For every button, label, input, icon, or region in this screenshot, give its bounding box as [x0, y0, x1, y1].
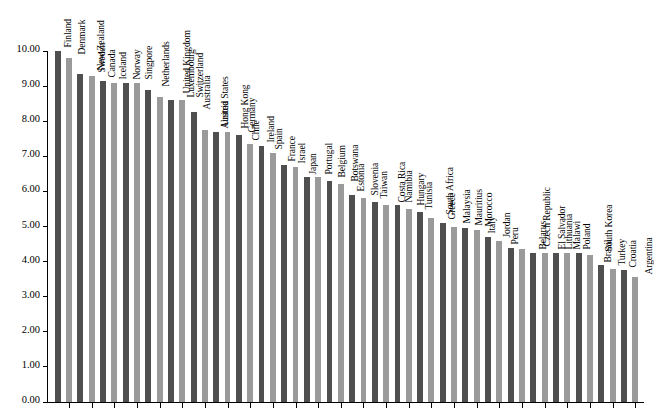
- bar-group[interactable]: Mauritius: [460, 0, 471, 402]
- bar-group[interactable]: Belgium: [324, 0, 335, 402]
- bar[interactable]: [462, 228, 468, 402]
- bar[interactable]: [281, 165, 287, 402]
- bar-group[interactable]: Malawi: [562, 0, 573, 402]
- bar[interactable]: [496, 241, 502, 402]
- bar-group[interactable]: Poland: [573, 0, 584, 402]
- bar[interactable]: [632, 277, 638, 402]
- bar-group[interactable]: United Kingdom: [154, 0, 165, 402]
- bar[interactable]: [372, 202, 378, 402]
- bar-group[interactable]: Brazil: [596, 0, 607, 402]
- bar[interactable]: [519, 249, 525, 402]
- bar[interactable]: [179, 100, 185, 402]
- bar-group[interactable]: France: [279, 0, 290, 402]
- bar[interactable]: [55, 51, 61, 402]
- bar[interactable]: [361, 198, 367, 402]
- bar-group[interactable]: Taiwan: [369, 0, 380, 402]
- bar[interactable]: [598, 265, 604, 402]
- bar-group[interactable]: Slovenia: [358, 0, 369, 402]
- bar-group[interactable]: South Africa: [426, 0, 437, 402]
- bar[interactable]: [89, 76, 95, 402]
- bar[interactable]: [440, 223, 446, 402]
- bar-group[interactable]: Austria: [211, 0, 222, 402]
- bar[interactable]: [304, 177, 310, 402]
- bar-group[interactable]: Tunisia: [414, 0, 425, 402]
- bar[interactable]: [542, 253, 548, 402]
- bar[interactable]: [621, 270, 627, 402]
- bar[interactable]: [530, 253, 536, 402]
- bar-group[interactable]: Lithuania: [550, 0, 561, 402]
- bar[interactable]: [225, 132, 231, 402]
- bar[interactable]: [134, 83, 140, 402]
- bar-group[interactable]: Hong Kong: [222, 0, 233, 402]
- bar-group[interactable]: Jordan: [494, 0, 505, 402]
- bar-group[interactable]: Estonia: [347, 0, 358, 402]
- bar-group[interactable]: Israel: [290, 0, 301, 402]
- bar-group[interactable]: El Salvador: [539, 0, 550, 402]
- bar-group[interactable]: Botswana: [335, 0, 346, 402]
- bar[interactable]: [111, 83, 117, 402]
- bar-group[interactable]: Argentina: [630, 0, 641, 402]
- bar-group[interactable]: Turkey: [607, 0, 618, 402]
- bar[interactable]: [417, 212, 423, 402]
- bar-group[interactable]: Switzerland: [177, 0, 188, 402]
- bar[interactable]: [564, 253, 570, 402]
- bar-group[interactable]: Chile: [245, 0, 256, 402]
- bar[interactable]: [576, 253, 582, 402]
- bar[interactable]: [259, 146, 265, 402]
- bar[interactable]: [168, 100, 174, 402]
- bar-group[interactable]: Namibia: [392, 0, 403, 402]
- bar[interactable]: [587, 255, 593, 402]
- bar-group[interactable]: Germany: [233, 0, 244, 402]
- bar-group[interactable]: Iceland: [109, 0, 120, 402]
- bar-group[interactable]: Sweden: [86, 0, 97, 402]
- bar-group[interactable]: Czech Republic: [516, 0, 527, 402]
- bar[interactable]: [383, 205, 389, 402]
- bar[interactable]: [451, 227, 457, 403]
- bar[interactable]: [610, 269, 616, 402]
- bar-group[interactable]: Morocco: [471, 0, 482, 402]
- bar[interactable]: [157, 97, 163, 402]
- bar-group[interactable]: Finland: [52, 0, 63, 402]
- bar-group[interactable]: Japan: [301, 0, 312, 402]
- bar-group[interactable]: Norway: [120, 0, 131, 402]
- bar[interactable]: [77, 74, 83, 402]
- bar-group[interactable]: Singpore: [131, 0, 142, 402]
- bar[interactable]: [213, 132, 219, 402]
- bar-group[interactable]: Costa Rica: [380, 0, 391, 402]
- bar[interactable]: [145, 90, 151, 402]
- bar-group[interactable]: Croatia: [618, 0, 629, 402]
- bar-group[interactable]: Italy: [482, 0, 493, 402]
- bar[interactable]: [485, 237, 491, 402]
- bar-group[interactable]: New Zealand: [75, 0, 86, 402]
- bar-group[interactable]: Greece: [437, 0, 448, 402]
- bar-group[interactable]: Spain: [267, 0, 278, 402]
- bar[interactable]: [406, 209, 412, 402]
- bar-group[interactable]: Ireland: [256, 0, 267, 402]
- bar[interactable]: [100, 81, 106, 402]
- bar-group[interactable]: United States: [199, 0, 210, 402]
- bar-group[interactable]: Denmark: [63, 0, 74, 402]
- bar-group[interactable]: Netherlands: [143, 0, 154, 402]
- bar-group[interactable]: Luxembourg: [165, 0, 176, 402]
- bar[interactable]: [270, 153, 276, 402]
- bar-group[interactable]: Peru: [505, 0, 516, 402]
- bar-group[interactable]: Portugal: [313, 0, 324, 402]
- bar[interactable]: [202, 130, 208, 402]
- bar[interactable]: [247, 144, 253, 402]
- bar-group[interactable]: Canada: [97, 0, 108, 402]
- bar-group[interactable]: Malaysia: [448, 0, 459, 402]
- bar[interactable]: [66, 58, 72, 402]
- bar[interactable]: [428, 218, 434, 402]
- bar[interactable]: [349, 195, 355, 402]
- bar[interactable]: [191, 112, 197, 402]
- bar[interactable]: [338, 184, 344, 402]
- bar[interactable]: [508, 248, 514, 402]
- bar[interactable]: [553, 253, 559, 402]
- bar-group[interactable]: Australia: [188, 0, 199, 402]
- bar[interactable]: [123, 83, 129, 402]
- bar-group[interactable]: South Korea: [584, 0, 595, 402]
- bar[interactable]: [395, 205, 401, 402]
- bar[interactable]: [315, 177, 321, 402]
- bar-group[interactable]: Hungary: [403, 0, 414, 402]
- bar-group[interactable]: Belarus: [528, 0, 539, 402]
